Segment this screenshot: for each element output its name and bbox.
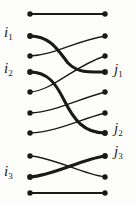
node-left-2 <box>27 33 33 39</box>
right-nodes <box>102 11 108 195</box>
label-j3-sub: 3 <box>118 151 123 161</box>
label-j1-sub: 1 <box>118 69 123 79</box>
label-j3: j3 <box>114 143 123 159</box>
node-right-5 <box>102 89 107 94</box>
label-j2-sub: 2 <box>118 128 123 138</box>
node-right-6 <box>102 110 107 115</box>
strand-i3-to-j3 <box>30 156 105 177</box>
node-left-9 <box>27 174 33 180</box>
node-left-3 <box>27 53 32 58</box>
label-j1: j1 <box>114 61 123 77</box>
strand-thin-c <box>30 92 105 113</box>
node-right-10 <box>102 190 107 195</box>
node-right-7 <box>102 130 108 136</box>
node-right-2 <box>102 33 107 38</box>
node-left-7 <box>27 130 32 135</box>
braid-svg <box>0 0 136 206</box>
node-right-1 <box>102 11 107 16</box>
label-i2-sub: 2 <box>8 68 13 78</box>
node-right-3 <box>102 53 107 58</box>
label-i3-sub: 3 <box>8 171 13 181</box>
node-right-4 <box>102 69 108 75</box>
label-i2: i2 <box>4 60 13 76</box>
label-i1-sub: 1 <box>8 32 13 42</box>
node-right-8 <box>102 153 108 159</box>
node-left-10 <box>27 190 32 195</box>
node-left-1 <box>27 11 32 16</box>
left-nodes <box>27 11 33 195</box>
strand-i1-to-j1 <box>30 36 105 72</box>
strand-i2-to-j2 <box>30 72 105 133</box>
label-j2: j2 <box>114 120 123 136</box>
label-i1: i1 <box>4 24 13 40</box>
node-left-4 <box>27 69 33 75</box>
braid-diagram: i1 i2 i3 j1 j2 j3 <box>0 0 136 206</box>
node-left-5 <box>27 89 32 94</box>
label-i3: i3 <box>4 163 13 179</box>
node-left-8 <box>27 153 32 158</box>
node-right-9 <box>102 174 107 179</box>
node-left-6 <box>27 110 32 115</box>
